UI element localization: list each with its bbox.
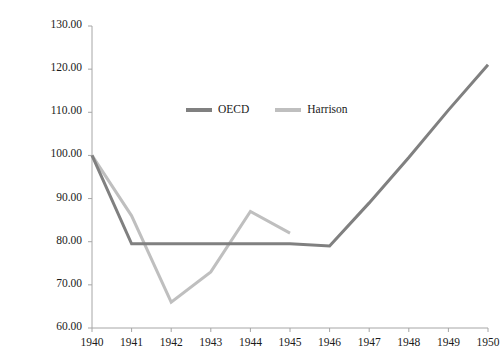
data-line-oecd <box>92 65 488 246</box>
data-line-harrison <box>92 155 290 302</box>
